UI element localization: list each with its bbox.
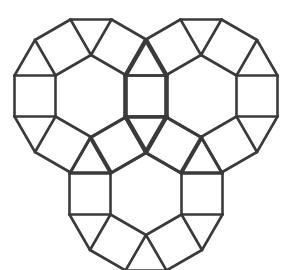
edge-line: [145, 20, 181, 41]
edge-line: [70, 215, 91, 251]
edge-line: [90, 138, 111, 174]
edge-line: [90, 215, 111, 251]
edge-line: [35, 20, 71, 41]
edge-line: [90, 118, 126, 139]
hexagon-square-triangle-rings: [0, 0, 287, 270]
edge-line: [112, 20, 148, 41]
edge-line: [181, 20, 202, 56]
edge-line: [91, 20, 112, 56]
edge-line: [202, 215, 223, 251]
edge-line: [35, 152, 71, 173]
edge-line: [56, 55, 92, 76]
edge-line: [167, 118, 203, 139]
edge-line: [237, 40, 258, 76]
edge-line: [111, 215, 147, 236]
edge-line: [202, 138, 223, 174]
edge-line: [222, 20, 258, 41]
edge-line: [182, 138, 203, 174]
edge-line: [91, 55, 127, 76]
edge-line: [257, 40, 278, 76]
edge-line: [35, 117, 56, 153]
edge-line: [91, 137, 112, 173]
edge-line: [201, 20, 222, 56]
edge-line: [127, 117, 148, 153]
edge-line: [166, 55, 202, 76]
edge-line: [126, 118, 147, 154]
edge-line: [15, 40, 36, 76]
edge-line: [222, 152, 258, 173]
edge-line: [146, 215, 182, 236]
edge-line: [237, 117, 258, 153]
edge-line: [56, 117, 92, 138]
edge-line: [146, 118, 167, 154]
edge-line: [71, 20, 92, 56]
edge-line: [167, 250, 203, 270]
edge-line: [70, 138, 91, 174]
edge-line: [111, 153, 147, 174]
edge-line: [146, 153, 182, 174]
edge-line: [147, 40, 168, 76]
edge-line: [146, 235, 167, 270]
edge-line: [35, 40, 56, 76]
edge-line: [145, 117, 166, 153]
edge-line: [182, 215, 203, 251]
edge-line: [181, 137, 202, 173]
edge-line: [125, 40, 146, 76]
edge-line: [126, 235, 147, 270]
tiling-figure: [0, 0, 287, 270]
edge-line: [127, 40, 148, 76]
edge-line: [145, 40, 166, 76]
edge-line: [201, 55, 237, 76]
edge-line: [15, 117, 36, 153]
edge-line: [90, 250, 126, 270]
edge-line: [201, 117, 237, 138]
edge-line: [257, 117, 278, 153]
